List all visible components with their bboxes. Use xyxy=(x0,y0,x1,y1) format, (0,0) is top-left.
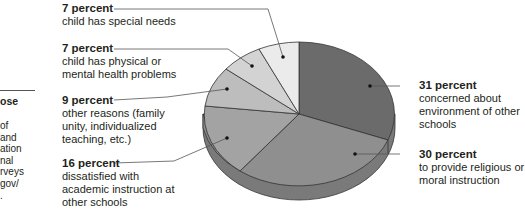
label-other-reasons: 9 percent other reasons (family unity, i… xyxy=(62,94,165,146)
label-desc: concerned about environment of other sch… xyxy=(419,92,520,131)
label-pct: 9 percent xyxy=(62,94,165,107)
label-special-needs: 7 percent child has special needs xyxy=(62,2,176,28)
label-pct: 7 percent xyxy=(62,42,176,55)
pie-slices xyxy=(204,42,394,186)
label-desc: child has special needs xyxy=(62,15,176,28)
label-health-problems: 7 percent child has physical or mental h… xyxy=(62,42,176,81)
label-pct: 30 percent xyxy=(419,148,524,161)
label-religious: 30 percent to provide religious or moral… xyxy=(419,148,524,187)
label-desc: dissatisfied with academic instruction a… xyxy=(62,170,175,209)
label-pct: 7 percent xyxy=(62,2,176,15)
label-desc: to provide religious or moral instructio… xyxy=(419,161,524,187)
label-environment: 31 percent concerned about environment o… xyxy=(419,79,520,131)
label-desc: child has physical or mental health prob… xyxy=(62,55,176,81)
label-desc: other reasons (family unity, individuali… xyxy=(62,107,165,146)
label-pct: 16 percent xyxy=(62,157,175,170)
label-academic: 16 percent dissatisfied with academic in… xyxy=(62,157,175,209)
label-pct: 31 percent xyxy=(419,79,520,92)
